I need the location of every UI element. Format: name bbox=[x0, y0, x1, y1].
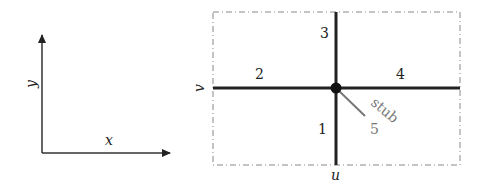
branch-stub bbox=[336, 88, 365, 116]
branch-label-2: 2 bbox=[255, 66, 264, 82]
junction bbox=[213, 12, 460, 165]
branch-label-5: 5 bbox=[370, 121, 379, 137]
junction-node bbox=[331, 83, 342, 94]
branch-label-3: 3 bbox=[320, 25, 329, 41]
branch-label-1: 1 bbox=[318, 121, 327, 137]
v-axis-label: v bbox=[191, 84, 207, 92]
x-axis-label: x bbox=[105, 132, 113, 148]
u-axis-label: u bbox=[331, 167, 340, 183]
coordinate-axes: y x bbox=[23, 35, 170, 153]
branch-label-4: 4 bbox=[396, 66, 405, 82]
y-axis-label: y bbox=[23, 79, 39, 89]
diagram-canvas: y x 3 2 4 1 5 stub v u bbox=[0, 0, 484, 192]
